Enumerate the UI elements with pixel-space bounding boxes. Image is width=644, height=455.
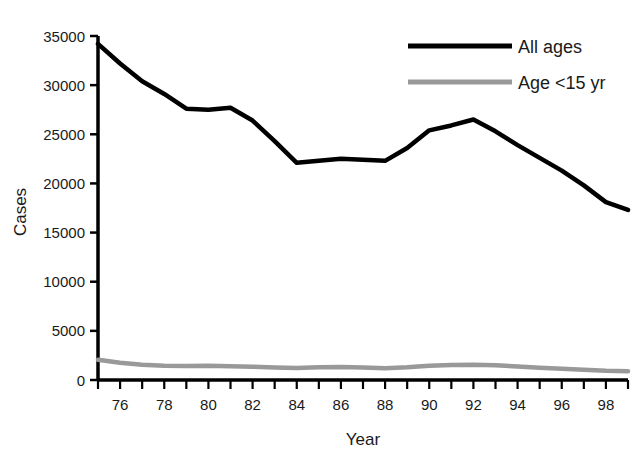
legend-label-2: Age <15 yr — [518, 73, 606, 93]
x-axis-title: Year — [346, 430, 381, 449]
x-axis-tick-label: 98 — [598, 396, 615, 413]
x-axis-tick-label: 88 — [377, 396, 394, 413]
y-axis-tick-label: 5000 — [52, 322, 85, 339]
x-axis-tick-label: 90 — [421, 396, 438, 413]
x-axis-tick-label: 96 — [553, 396, 570, 413]
y-axis-tick-label: 30000 — [43, 77, 85, 94]
y-axis-tick-label: 0 — [77, 372, 85, 389]
y-axis-tick-label: 10000 — [43, 273, 85, 290]
x-axis-tick-label: 94 — [509, 396, 526, 413]
y-axis-title: Cases — [11, 188, 30, 236]
legend-label-1: All ages — [518, 37, 582, 57]
x-axis-tick-label: 78 — [156, 396, 173, 413]
x-axis-tick-label: 86 — [333, 396, 350, 413]
x-axis-tick-label: 92 — [465, 396, 482, 413]
line-chart-plot: 05000100001500020000250003000035000 7678… — [0, 0, 644, 455]
x-axis-tick-label: 76 — [112, 396, 129, 413]
x-axis-tick-label: 82 — [244, 396, 261, 413]
y-axis-tick-label: 25000 — [43, 126, 85, 143]
chart-container: 05000100001500020000250003000035000 7678… — [0, 0, 644, 455]
y-axis-tick-label: 20000 — [43, 175, 85, 192]
y-axis-tick-label: 15000 — [43, 224, 85, 241]
x-axis-tick-label: 80 — [200, 396, 217, 413]
x-axis-tick-label: 84 — [288, 396, 305, 413]
y-axis-tick-label: 35000 — [43, 28, 85, 45]
